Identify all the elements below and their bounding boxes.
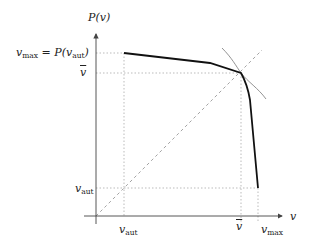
vaut-x-label: vaut bbox=[119, 224, 138, 237]
diagram-canvas: P(v) v vmax = P(vaut) v vaut vaut v vmax bbox=[0, 0, 313, 243]
vbar-y-label: v bbox=[80, 67, 86, 78]
y-axis-label: P(v) bbox=[88, 12, 110, 23]
diagram-svg bbox=[0, 0, 313, 243]
vbar-x-label: v bbox=[236, 221, 242, 232]
thin-curve bbox=[222, 48, 266, 99]
vmax-x-label: vmax bbox=[261, 224, 283, 237]
identity-diagonal bbox=[96, 50, 262, 216]
vmax-equation-label: vmax = P(vaut) bbox=[16, 47, 89, 60]
x-axis-label: v bbox=[290, 211, 296, 222]
vaut-y-label: vaut bbox=[75, 183, 94, 196]
